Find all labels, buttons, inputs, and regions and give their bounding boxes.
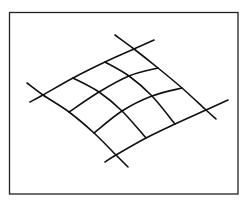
mesh-diagram — [0, 0, 248, 202]
grid-line-col-1 — [73, 78, 146, 138]
grid-line-row-1 — [69, 68, 158, 112]
curved-grid — [27, 35, 228, 167]
frame-border — [10, 13, 239, 195]
